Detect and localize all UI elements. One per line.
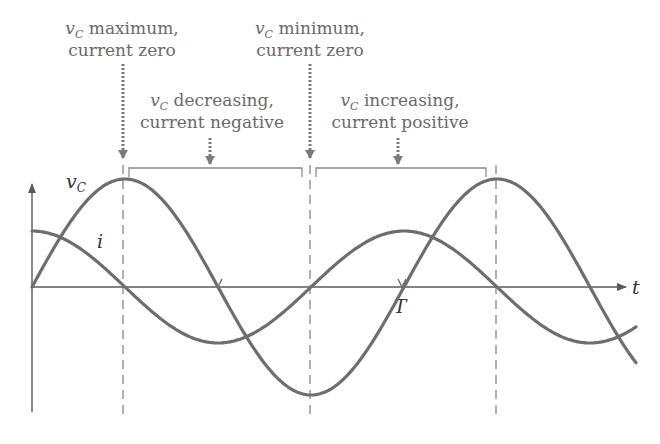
lc-oscillation-diagram: vC maximum, current zero vC minimum, cur…: [0, 0, 660, 444]
curve-vc-label: vC: [66, 170, 86, 195]
svg-text:vC maximum,: vC maximum,: [65, 18, 178, 41]
bracket-increasing: [316, 168, 486, 177]
annotation-vc-min: vC minimum, current zero: [255, 18, 365, 60]
annotation-vc-decreasing: vC decreasing, current negative: [140, 90, 284, 132]
curve-i-label: i: [97, 230, 103, 252]
svg-text:current zero: current zero: [256, 40, 363, 60]
annotation-vc-max: vC maximum, current zero: [65, 18, 178, 60]
svg-text:current negative: current negative: [140, 112, 284, 132]
svg-text:vC minimum,: vC minimum,: [255, 18, 365, 41]
x-axis-label: t: [632, 276, 640, 298]
svg-text:current zero: current zero: [68, 40, 175, 60]
svg-text:vC decreasing,: vC decreasing,: [150, 90, 274, 113]
annotation-vc-increasing: vC increasing, current positive: [331, 90, 468, 132]
period-label: T: [394, 295, 408, 317]
svg-text:vC increasing,: vC increasing,: [340, 90, 459, 113]
bracket-decreasing: [129, 168, 302, 177]
svg-text:current positive: current positive: [331, 112, 468, 132]
